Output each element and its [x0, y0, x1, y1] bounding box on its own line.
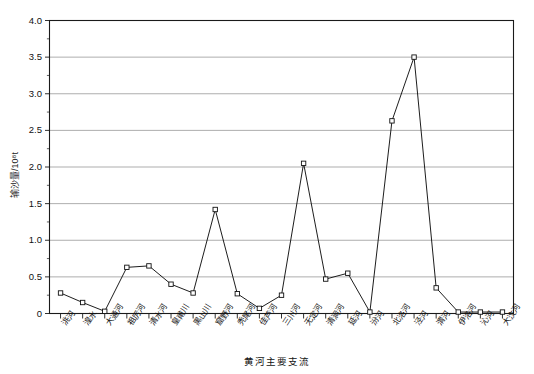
chart-figure: 输沙量/10⁸t 00.51.01.52.02.53.03.54.0 洮河湟水大…: [0, 0, 534, 374]
y-tick-label: 2.5: [16, 124, 42, 135]
data-point-marker: [434, 286, 438, 290]
x-axis-title: 黄河主要支流: [244, 354, 311, 368]
data-point-marker: [191, 291, 195, 295]
data-point-marker: [412, 55, 416, 59]
data-point-marker: [58, 291, 62, 295]
data-point-marker: [279, 293, 283, 297]
data-point-marker: [390, 119, 394, 123]
data-point-marker: [257, 306, 261, 310]
y-tick-label: 4.0: [16, 15, 42, 26]
y-tick-label: 1.0: [16, 234, 42, 245]
y-tick-label: 0.5: [16, 271, 42, 282]
y-tick-label: 3.5: [16, 51, 42, 62]
data-point-marker: [147, 264, 151, 268]
y-axis-label-container: 输沙量/10⁸t: [4, 120, 24, 230]
y-tick-label: 3.0: [16, 88, 42, 99]
data-point-marker: [169, 282, 173, 286]
data-point-marker: [346, 271, 350, 275]
y-tick-label: 1.5: [16, 198, 42, 209]
y-tick-label: 2.0: [16, 161, 42, 172]
data-point-marker: [213, 207, 217, 211]
data-point-marker: [301, 161, 305, 165]
data-point-marker: [80, 300, 84, 304]
data-point-marker: [235, 292, 239, 296]
data-point-marker: [125, 265, 129, 269]
data-point-marker: [323, 277, 327, 281]
y-tick-label: 0: [16, 308, 42, 319]
data-series-line: [61, 57, 503, 312]
y-axis-label: 输沙量/10⁸t: [8, 152, 21, 198]
